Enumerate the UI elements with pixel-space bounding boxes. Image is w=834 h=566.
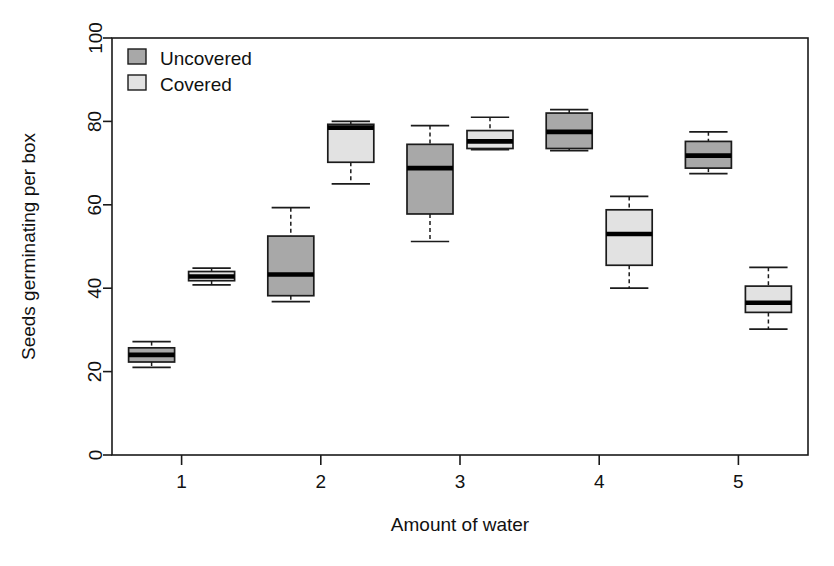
y-axis-title: Seeds germinating per box <box>18 132 39 360</box>
box-covered-1 <box>189 268 235 285</box>
legend-swatch-covered <box>128 75 146 90</box>
y-tick-label: 20 <box>85 361 106 382</box>
y-tick-label: 60 <box>85 194 106 215</box>
box-covered-5 <box>745 267 791 329</box>
x-tick-label: 2 <box>316 471 327 492</box>
x-axis: 12345 <box>176 455 743 492</box>
y-tick-label: 40 <box>85 278 106 299</box>
x-tick-label: 3 <box>455 471 466 492</box>
box-body <box>407 144 453 214</box>
box-uncovered-5 <box>685 132 731 174</box>
box-covered-3 <box>467 117 513 150</box>
y-tick-label: 0 <box>85 450 106 461</box>
y-tick-label: 80 <box>85 111 106 132</box>
box-body <box>268 236 314 296</box>
box-covered-2 <box>328 121 374 184</box>
box-body <box>745 286 791 312</box>
box-body <box>606 210 652 265</box>
box-uncovered-3 <box>407 126 453 242</box>
y-tick-label: 100 <box>85 22 106 54</box>
legend-label-uncovered: Uncovered <box>160 48 252 69</box>
boxplot-chart: 020406080100Seeds germinating per box123… <box>0 0 834 566</box>
legend-swatch-uncovered <box>128 49 146 64</box>
plot-frame <box>112 38 808 455</box>
legend: UncoveredCovered <box>128 48 252 95</box>
x-tick-label: 5 <box>733 471 744 492</box>
chart-canvas: 020406080100Seeds germinating per box123… <box>0 0 834 566</box>
box-covered-4 <box>606 196 652 288</box>
box-body <box>328 124 374 162</box>
box-uncovered-2 <box>268 208 314 302</box>
y-axis: 020406080100 <box>85 22 113 460</box>
legend-label-covered: Covered <box>160 74 232 95</box>
x-tick-label: 4 <box>594 471 605 492</box>
box-uncovered-1 <box>129 342 175 368</box>
x-tick-label: 1 <box>176 471 187 492</box>
x-axis-title: Amount of water <box>391 514 530 535</box>
box-uncovered-4 <box>546 110 592 151</box>
